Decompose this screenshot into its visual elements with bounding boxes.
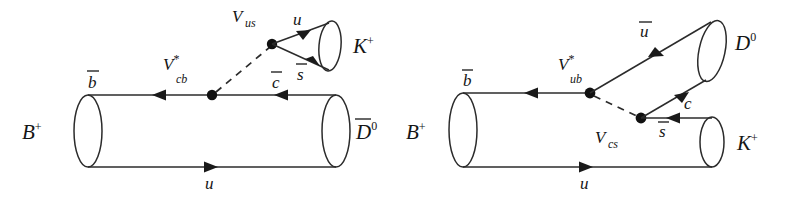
right-vcs-v: V <box>595 128 608 147</box>
right-d0-open-end <box>693 18 731 84</box>
right-b-meson-open-end <box>449 93 477 167</box>
right-label-bbar: b <box>462 70 473 90</box>
right-ubar-line <box>590 22 711 93</box>
right-b-label: B+ <box>406 120 426 144</box>
right-label-sbar: s <box>658 122 669 141</box>
right-u-spectator-arrow <box>579 162 593 173</box>
right-k-label-text: K <box>736 131 752 155</box>
right-ubar-text: u <box>640 22 649 41</box>
right-b-label-text: B <box>406 120 419 144</box>
right-d0-label: D0 <box>734 30 756 55</box>
right-c-text: c <box>684 94 692 113</box>
right-b-label-charge: + <box>419 120 426 134</box>
right-k-meson <box>641 113 724 168</box>
right-k-label-charge: + <box>751 131 758 145</box>
right-d0-label-charge: 0 <box>750 30 756 44</box>
right-vub-sub: ub <box>570 72 582 86</box>
right-k-open-end <box>700 117 724 167</box>
right-w-boson-dashed-line <box>594 96 637 116</box>
right-label-vcs: V cs <box>595 128 618 151</box>
feynman-diagram-figure: B+ b u V* cb V us c u <box>0 0 807 197</box>
right-vub-star: * <box>568 52 574 66</box>
right-ubar-arrow <box>648 47 664 57</box>
right-k-label: K+ <box>736 131 758 155</box>
right-c-line <box>641 80 706 118</box>
right-d0-meson <box>590 18 731 118</box>
right-label-vub: V* ub <box>558 52 582 86</box>
right-diagram: B+ b u V* ub V cs u c s <box>0 0 807 197</box>
right-d0-label-text: D <box>734 31 750 55</box>
svg-text:V*: V* <box>558 52 574 74</box>
right-bbar-text: b <box>463 71 472 90</box>
right-label-ubar: u <box>639 22 652 41</box>
right-bbar-arrow <box>524 88 538 99</box>
right-vcs-sub: cs <box>608 137 618 151</box>
right-u-spectator-text: u <box>580 174 589 193</box>
right-b-meson-cylinder <box>449 93 712 167</box>
right-sbar-text: s <box>659 122 666 141</box>
